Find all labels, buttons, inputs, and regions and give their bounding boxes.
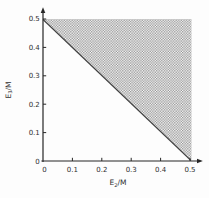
y-axis-arrowhead-icon xyxy=(41,7,46,13)
x-tick-label: 0 xyxy=(42,166,46,174)
y-tick-label: 0.3 xyxy=(29,72,40,80)
y-axis: 0 0.1 0.2 0.3 0.4 0.5 E3/M xyxy=(4,7,47,166)
x-axis-label: E2/M xyxy=(109,178,126,188)
x-tick-label: 0.2 xyxy=(96,166,107,174)
y-tick-label: 0.2 xyxy=(29,101,40,109)
x-tick-label: 0.5 xyxy=(184,166,195,174)
x-tick-label: 0.4 xyxy=(155,166,167,174)
y-tick-label: 0 xyxy=(35,158,39,166)
plot-svg: 0 0.1 0.2 0.3 0.4 0.5 E3/M 0 0.1 0.2 0.3… xyxy=(0,0,209,198)
y-tick-label: 0.1 xyxy=(29,129,40,137)
y-axis-label: E3/M xyxy=(4,81,14,98)
x-tick-label: 0.1 xyxy=(67,166,78,174)
x-axis: 0 0.1 0.2 0.3 0.4 0.5 E2/M xyxy=(41,158,202,188)
y-tick-label: 0.5 xyxy=(29,15,40,23)
chart: 0 0.1 0.2 0.3 0.4 0.5 E3/M 0 0.1 0.2 0.3… xyxy=(0,0,209,198)
x-axis-arrowhead-icon xyxy=(197,159,203,164)
x-tick-label: 0.3 xyxy=(126,166,137,174)
y-tick-label: 0.4 xyxy=(29,44,41,52)
